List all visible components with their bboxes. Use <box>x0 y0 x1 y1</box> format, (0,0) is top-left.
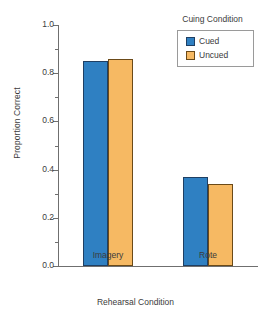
legend-swatch-uncued-icon <box>186 51 195 60</box>
y-tick-mark <box>55 146 58 147</box>
bar-imagery-uncued <box>108 59 133 266</box>
y-tick-label: 1.0 <box>42 19 54 29</box>
y-axis-label: Proportion Correct <box>12 63 22 183</box>
legend-box: CuedUncued <box>177 30 254 67</box>
y-axis-line <box>58 25 59 266</box>
x-axis-line <box>58 266 258 267</box>
y-tick-label: 0.4 <box>42 164 54 174</box>
bar-chart-figure: Proportion Correct 0.00.20.40.60.81.0 Im… <box>0 0 271 320</box>
x-tick-label-rote: Rote <box>199 250 217 260</box>
y-tick-mark <box>55 242 58 243</box>
y-tick-label: 0.8 <box>42 67 54 77</box>
x-axis-label: Rehearsal Condition <box>0 297 271 307</box>
x-tick-label-imagery: Imagery <box>93 250 124 260</box>
y-tick-mark <box>55 194 58 195</box>
legend-swatch-cued-icon <box>186 37 195 46</box>
y-tick-mark <box>55 97 58 98</box>
y-tick-label: 0.6 <box>42 115 54 125</box>
legend-item-cued: Cued <box>186 37 246 46</box>
y-tick-label: 0.0 <box>42 260 54 270</box>
bar-imagery-cued <box>83 61 108 266</box>
y-tick-mark <box>55 49 58 50</box>
legend-item-uncued: Uncued <box>186 51 246 60</box>
y-tick-label: 0.2 <box>42 212 54 222</box>
legend-label: Uncued <box>199 51 228 60</box>
legend-title: Cuing Condition <box>155 14 270 24</box>
legend-label: Cued <box>199 37 219 46</box>
